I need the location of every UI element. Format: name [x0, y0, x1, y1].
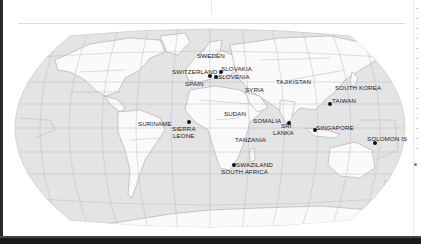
label-sierra-leone: SIERRA LEONE — [172, 125, 196, 139]
label-slovakia: SLOVAKIA — [221, 65, 252, 72]
label-spain: SPAIN — [185, 80, 204, 87]
label-sudan: SUDAN — [224, 110, 246, 117]
label-syria: SYRIA — [245, 86, 264, 93]
label-sri-lanka-line2: LANKA — [273, 129, 294, 136]
label-suriname: SURINAME — [138, 120, 171, 127]
label-swaziland: SWAZILAND — [236, 161, 273, 168]
label-south-africa: SOUTH AFRICA — [221, 168, 268, 175]
marker-solomon-is[interactable] — [373, 141, 377, 145]
marker-switzerland[interactable] — [208, 74, 212, 78]
marker-sierra-leone[interactable] — [187, 120, 191, 124]
marker-swaziland[interactable] — [232, 163, 236, 167]
label-south-korea: SOUTH KOREA — [335, 84, 381, 91]
frame-bottom-edge — [0, 236, 421, 244]
label-sierra-leone-line2: LEONE — [172, 132, 196, 139]
label-tanzania: TANZANIA — [235, 136, 266, 143]
label-tajikistan: TAJIKISTAN — [276, 78, 311, 85]
label-slovenia: SLOVENIA — [218, 73, 250, 80]
marker-singapore[interactable] — [313, 128, 317, 132]
label-somalia: SOMALIA — [253, 117, 281, 124]
marker-taiwan[interactable] — [328, 102, 332, 106]
world-map — [0, 0, 421, 244]
label-sweden: SWEDEN — [197, 52, 225, 59]
marker-sri-lanka[interactable] — [287, 121, 291, 125]
marker-slovenia[interactable] — [214, 75, 218, 79]
label-singapore: SINGAPORE — [316, 124, 354, 131]
label-sierra-leone-line1: SIERRA — [172, 125, 196, 132]
label-taiwan: TAIWAN — [332, 97, 356, 104]
